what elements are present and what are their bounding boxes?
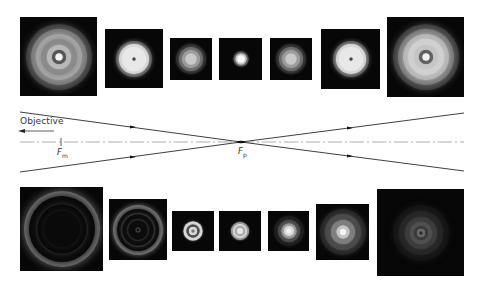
diffraction-ring bbox=[44, 211, 80, 247]
arrow-upper-right-icon bbox=[347, 126, 353, 129]
diffraction-ring bbox=[340, 229, 346, 235]
focus-p-subscript: p bbox=[243, 151, 247, 158]
arrow-lower-left-icon bbox=[130, 155, 136, 158]
focal-point-marker bbox=[237, 141, 245, 143]
diffraction-ring bbox=[286, 229, 291, 234]
bottom-pattern-2 bbox=[109, 199, 167, 260]
bottom-pattern-6 bbox=[316, 204, 369, 260]
diffraction-ring bbox=[192, 230, 195, 233]
focus-m-subscript: m bbox=[62, 152, 68, 159]
objective-label: Objective bbox=[20, 116, 64, 126]
bottom-pattern-3 bbox=[172, 211, 214, 251]
arrow-lower-right-icon bbox=[347, 154, 353, 157]
diffraction-ring bbox=[237, 228, 243, 234]
focus-m-label: Fm bbox=[57, 147, 68, 159]
diffraction-ring bbox=[137, 229, 139, 231]
upper-right-ray bbox=[241, 113, 464, 142]
bottom-pattern-7 bbox=[377, 189, 464, 276]
bottom-pattern-4 bbox=[219, 211, 261, 251]
arrow-upper-left-icon bbox=[130, 125, 136, 128]
diffraction-ring bbox=[419, 231, 422, 234]
bottom-pattern-1 bbox=[20, 187, 103, 271]
focus-p-label: Fp bbox=[238, 146, 247, 158]
objective-arrow-icon bbox=[18, 129, 54, 133]
bottom-pattern-5 bbox=[268, 211, 309, 251]
lower-right-ray bbox=[241, 142, 464, 171]
